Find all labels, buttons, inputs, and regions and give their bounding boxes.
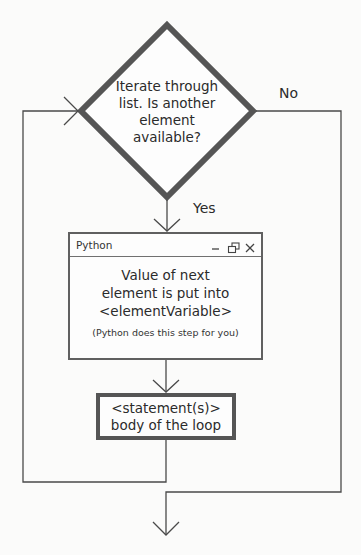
decision-line: available? (107, 129, 227, 146)
main-text-line: Value of next (70, 266, 261, 284)
statement-line: <statement(s)> (100, 400, 232, 417)
main-text-line: element is put into (70, 284, 261, 302)
python-window-titlebar: Python (70, 234, 261, 257)
no-label: No (279, 85, 298, 101)
python-window-main-text: Value of next element is put into <eleme… (70, 266, 261, 320)
python-window-title: Python (76, 239, 112, 251)
statement-box: <statement(s)> body of the loop (96, 393, 236, 440)
python-window-body: Value of next element is put into <eleme… (70, 257, 261, 338)
decision-text: Iterate through list. Is another element… (107, 78, 227, 146)
restore-icon[interactable] (227, 239, 239, 251)
window-controls (210, 239, 256, 251)
main-text-line: <elementVariable> (70, 302, 261, 320)
yes-label: Yes (193, 200, 216, 216)
python-window-note: (Python does this step for you) (70, 327, 261, 338)
minimize-icon[interactable] (210, 239, 222, 251)
statement-line: body of the loop (100, 417, 232, 434)
decision-line: Iterate through (107, 78, 227, 95)
close-icon[interactable] (244, 239, 256, 251)
decision-line: element (107, 112, 227, 129)
python-window: Python Value of next element is put into… (68, 232, 263, 360)
decision-line: list. Is another (107, 95, 227, 112)
